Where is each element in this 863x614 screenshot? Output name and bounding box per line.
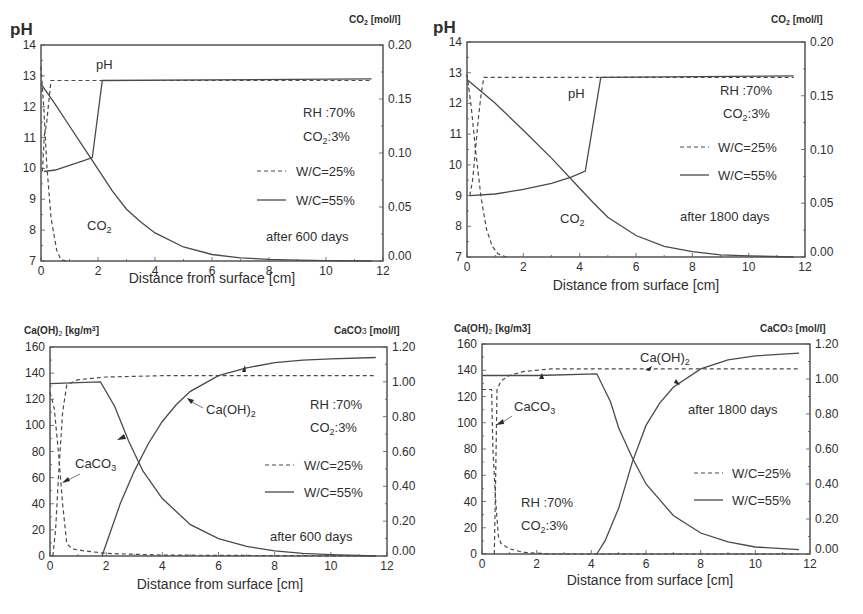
- y-tick-label: 8: [455, 219, 462, 233]
- legend-label-wc55: W/C=55%: [296, 193, 355, 208]
- y2-axis-title: CaCO3 [mol/l]: [334, 325, 400, 336]
- y-tick-label: 80: [32, 445, 46, 459]
- chart-ph-600-days: pH CO2 [mol/l] 02468101278910111213140.0…: [0, 0, 430, 300]
- condition-rh: RH :70%: [720, 83, 772, 98]
- annotation-days: after 1800 days: [688, 402, 778, 417]
- legend-label-wc25: W/C=25%: [718, 140, 777, 155]
- caoh2-arrow-icon: [187, 398, 194, 404]
- y-tick-label: 12: [449, 96, 463, 110]
- legend-label-wc25: W/C=25%: [732, 466, 791, 481]
- y2-tick-label: 1.20: [815, 337, 839, 351]
- y2-tick-label: 0.05: [388, 200, 412, 214]
- y2-tick-label: 0.05: [810, 196, 834, 210]
- y-tick-label: 140: [25, 366, 45, 380]
- caoh2-leader-line: [192, 402, 203, 408]
- y-axis-title: pH: [10, 20, 33, 39]
- y2-axis-title: CaCO3 [mol/l]: [760, 323, 826, 334]
- plot-frame: [50, 347, 387, 556]
- y2-tick-label: 0.00: [815, 542, 839, 556]
- x-tick-label: 12: [376, 264, 390, 278]
- y2-tick-label: 0.20: [815, 512, 839, 526]
- y2-tick-label: 0.15: [388, 92, 412, 106]
- y-tick-label: 80: [464, 442, 478, 456]
- y-tick-label: 11: [450, 127, 463, 141]
- y-tick-label: 20: [32, 523, 46, 537]
- y-tick-label: 100: [457, 416, 477, 430]
- annotation-ph: pH: [568, 86, 585, 101]
- x-tick-label: 4: [576, 260, 583, 274]
- y2-tick-label: 0.15: [810, 89, 834, 103]
- annotation-co2: CO2: [87, 218, 112, 235]
- series-co2-w-c-25-: [41, 67, 67, 261]
- series-ca-oh-2-w-c-55-: [597, 353, 799, 554]
- y2-axis-title: CO2 [mol/l]: [771, 14, 823, 26]
- series-co2-w-c-25-: [467, 74, 506, 257]
- y2-tick-label: 0.00: [810, 245, 834, 259]
- annotation-caco3: CaCO3: [514, 399, 555, 416]
- y2-tick-label: 0.10: [388, 146, 412, 160]
- y-axis-title: Ca(OH)2 [kg/m3]: [454, 323, 531, 335]
- chart-caoh2-1800-days: Ca(OH)2 [kg/m3] CaCO3 [mol/l] 0246810120…: [430, 310, 863, 614]
- condition-co2: CO2:3%: [310, 420, 357, 437]
- x-tick-label: 10: [319, 264, 333, 278]
- condition-rh: RH :70%: [310, 397, 362, 412]
- y-tick-label: 100: [25, 418, 45, 432]
- y-tick-label: 20: [464, 521, 478, 535]
- annotation-caoh2: Ca(OH)2: [206, 402, 256, 419]
- y2-tick-label: 0.00: [388, 249, 412, 263]
- x-tick-label: 6: [643, 557, 650, 571]
- condition-rh: RH :70%: [303, 105, 355, 120]
- y-tick-label: 60: [32, 471, 46, 485]
- y2-tick-label: 0.60: [392, 445, 416, 459]
- chart-ph-1800-days: pH CO2 [mol/l] 02468101278910111213140.0…: [430, 0, 863, 300]
- legend-label-wc25: W/C=25%: [296, 164, 355, 179]
- caco3-arrow-icon: [496, 419, 504, 425]
- x-tick-label: 2: [103, 559, 110, 573]
- caco3-arrow-icon: [117, 434, 126, 440]
- y-tick-label: 8: [29, 223, 36, 237]
- x-tick-label: 8: [271, 559, 278, 573]
- y-tick-label: 160: [457, 337, 477, 351]
- y2-tick-label: 1.00: [392, 375, 416, 389]
- x-tick-label: 4: [588, 557, 595, 571]
- y-tick-label: 13: [23, 69, 37, 83]
- y-tick-label: 11: [24, 131, 37, 145]
- x-axis-title: Distance from surface [cm]: [137, 576, 304, 592]
- x-tick-label: 0: [38, 264, 45, 278]
- y2-tick-label: 0.80: [815, 407, 839, 421]
- x-tick-label: 8: [697, 557, 704, 571]
- x-tick-label: 12: [798, 260, 812, 274]
- y-tick-label: 120: [25, 392, 45, 406]
- caoh2-arrow-icon: [645, 366, 652, 371]
- chart-caoh2-600-days: Ca(OH)2 [kg/m3] CaCO3 [mol/l] 0246810120…: [0, 310, 430, 614]
- y2-tick-label: 0.20: [810, 35, 834, 49]
- x-tick-label: 2: [95, 264, 102, 278]
- annotation-caco3: CaCO3: [75, 456, 116, 473]
- annotation-days: after 600 days: [266, 229, 349, 244]
- annotation-days: after 600 days: [270, 529, 353, 544]
- chart-svg: pH CO2 [mol/l] 02468101278910111213140.0…: [430, 0, 863, 300]
- condition-co2: CO2:3%: [303, 129, 350, 146]
- x-axis-title: Distance from surface [cm]: [129, 270, 296, 286]
- x-tick-label: 2: [520, 260, 527, 274]
- y-tick-label: 7: [455, 250, 462, 264]
- annotation-days: after 1800 days: [680, 209, 770, 224]
- y2-tick-label: 1.00: [815, 372, 839, 386]
- x-tick-label: 10: [742, 260, 756, 274]
- y-tick-label: 140: [457, 363, 477, 377]
- y2-tick-label: 0.20: [392, 514, 416, 528]
- x-tick-label: 12: [803, 557, 817, 571]
- y-tick-label: 14: [449, 35, 463, 49]
- y-tick-label: 60: [464, 468, 478, 482]
- x-tick-label: 0: [479, 557, 486, 571]
- y-tick-label: 13: [449, 66, 463, 80]
- chart-svg: Ca(OH)2 [kg/m3] CaCO3 [mol/l] 0246810120…: [430, 310, 863, 614]
- y-axis-title: Ca(OH)2 [kg/m3]: [24, 325, 99, 337]
- y2-axis-title: CO2 [mol/l]: [349, 14, 401, 26]
- plot-area: 0246810120204060801001201401600.000.200.…: [457, 337, 839, 571]
- chart-svg: Ca(OH)2 [kg/m3] CaCO3 [mol/l] 0246810120…: [0, 310, 430, 614]
- series-ph-w-c-55-: [44, 79, 372, 172]
- y-tick-label: 12: [23, 100, 37, 114]
- x-tick-label: 4: [159, 559, 166, 573]
- x-tick-label: 2: [533, 557, 540, 571]
